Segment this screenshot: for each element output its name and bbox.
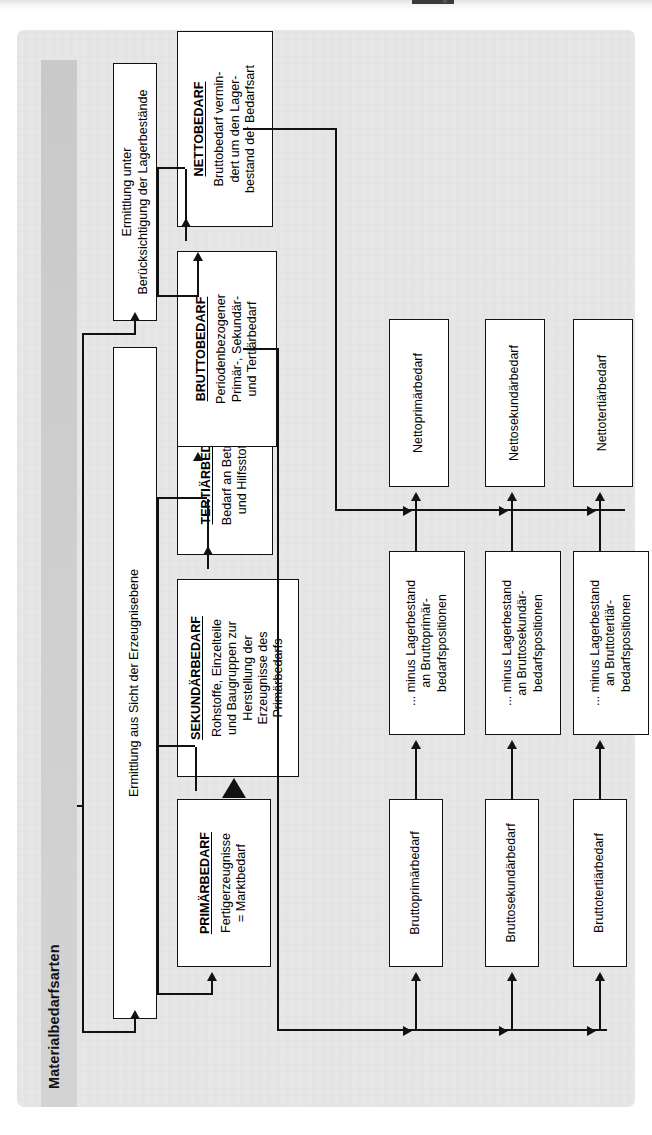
node-sekundaerbedarf-line4: Erzeugnisse des (256, 631, 271, 724)
node-nettobedarf-header: NETTOBEDARF (192, 82, 207, 177)
feed-primaer-arrow (411, 972, 421, 981)
level-lagerbestaende: Ermittlung unter Berücksichtigung der La… (113, 63, 157, 321)
node-bruttoprimaerbedarf-label: Bruttoprimärbedarf (408, 831, 423, 934)
arrow-brutto-entry (193, 252, 203, 261)
feeder-lager-top (157, 169, 159, 297)
node-sekundaerbedarf-line2: und Baugruppen zur (225, 621, 240, 735)
node-primaerbedarf-line1: Fertigerzeugnisse (219, 833, 234, 933)
arrow-into-nettobedarf (181, 218, 191, 227)
node-sekundaerbedarf-line3: Herstellung der (241, 635, 256, 720)
nettobedarf-bus-drop (243, 128, 337, 130)
chain3-a (599, 749, 601, 799)
feeder-erzeugnis-spine (157, 993, 211, 995)
level-erzeugnisebene: Ermittlung aus Sicht der Erzeugnisebene (113, 347, 157, 1019)
node-sekundaerbedarf-line1: Rohstoffe, Einzelteile (210, 619, 225, 737)
spine-drop-right (82, 333, 135, 335)
feed-primaer-chain (415, 981, 417, 1031)
node-minus-tertiaer[interactable]: ... minus Lagerbestand an Bruttotertiär-… (573, 551, 649, 735)
node-nettosekundaerbedarf[interactable]: Nettosekundärbedarf (485, 319, 545, 487)
spine-arm-right2 (134, 319, 136, 335)
node-nettotertiaerbedarf[interactable]: Nettotertiärbedarf (573, 319, 633, 487)
feeder-brutto-approach (197, 261, 199, 297)
node-minus-sekundaer-line1: ... minus Lagerbestand (500, 580, 515, 706)
chain3-arrow-a (595, 740, 605, 749)
nettobus-arrow-row1 (403, 506, 412, 516)
chain2-a (511, 749, 513, 799)
node-sekundaerbedarf-line5: Primärbedarfs (271, 638, 286, 717)
node-minus-primaer[interactable]: ... minus Lagerbestand an Bruttoprimär- … (389, 551, 465, 735)
node-bruttobedarf-line1: Periodenbezogener (214, 294, 229, 404)
chain3-arrow-b (595, 492, 605, 501)
level-erzeugnisebene-label: Ermittlung aus Sicht der Erzeugnisebene (127, 569, 143, 797)
bruttobus-arrow-row3 (587, 1026, 596, 1036)
spine-arm-right (82, 333, 84, 807)
scan-artifact-mark (412, 0, 454, 4)
feeder-to-sekundaer (157, 745, 195, 747)
spine-drop-left (82, 1031, 135, 1033)
node-bruttotertiaerbedarf-label: Bruttotertiärbedarf (592, 833, 607, 933)
node-nettobedarf-line2: dert um den Lager- (228, 75, 243, 182)
node-minus-tertiaer-line2: an Bruttotertiär- (603, 600, 618, 686)
node-primaerbedarf-line2: = Marktbedarf (234, 844, 249, 922)
arrow-into-erzeugnisebene (130, 1010, 140, 1019)
bruttobedarf-bus-v (277, 1029, 607, 1031)
node-bruttosekundaerbedarf[interactable]: Bruttosekundärbedarf (485, 799, 539, 967)
feeder-to-tertiaer-v (157, 497, 207, 499)
chain2-arrow-a (507, 740, 517, 749)
arrow-into-tertiaer (203, 546, 213, 555)
feeder-lager-spine (157, 295, 197, 297)
bruttobus-arrow-row1 (403, 1026, 412, 1036)
chain1-a (415, 749, 417, 799)
node-nettobedarf-line1: Bruttobedarf vermin- (212, 72, 227, 187)
node-bruttotertiaerbedarf[interactable]: Bruttotertiärbedarf (573, 799, 627, 967)
feeder-erzeugnis-top (157, 499, 159, 995)
chain2-arrow-b (507, 492, 517, 501)
node-bruttobedarf-header: BRUTTOBEDARF (194, 297, 209, 402)
node-bruttoprimaerbedarf[interactable]: Bruttoprimärbedarf (389, 799, 443, 967)
feeder-to-sekundaer-h (195, 747, 197, 791)
feed-sekundaer-arrow (507, 972, 517, 981)
nettobedarf-bus-h (335, 129, 337, 511)
feeder-to-netto-v (157, 167, 185, 169)
bruttobedarf-bus-drop (243, 348, 279, 350)
feed-tertiaer-arrow (595, 972, 605, 981)
feeder-to-tertiaer-h (207, 499, 209, 569)
scan-artifact-dot (443, 0, 447, 3)
chain1-arrow-b (411, 492, 421, 501)
page-title: Materialbedarfsarten (46, 944, 62, 1089)
node-nettotertiaerbedarf-label: Nettotertiärbedarf (595, 355, 610, 451)
scan-page-edge (0, 0, 652, 10)
node-minus-sekundaer-line2: an Bruttosekundär- (515, 590, 530, 695)
spine-horizontal (82, 805, 84, 1033)
node-nettoprimaerbedarf-label: Nettoprimärbedarf (411, 353, 426, 453)
node-minus-primaer-line3: bedarfspositionen (435, 594, 450, 692)
nettobedarf-bus-v (335, 509, 625, 511)
node-nettosekundaerbedarf-label: Nettosekundärbedarf (507, 345, 522, 461)
node-sekundaerbedarf-header: SEKUNDÄRBEDARF (189, 616, 204, 740)
feeder-to-netto-h (185, 169, 187, 241)
nettobus-arrow-row3 (587, 506, 596, 516)
node-minus-sekundaer[interactable]: ... minus Lagerbestand an Bruttosekundär… (485, 551, 561, 735)
level-lagerbestaende-label: Ermittlung unter Berücksichtigung der La… (119, 89, 152, 294)
node-minus-primaer-line1: ... minus Lagerbestand (404, 580, 419, 706)
arrow-into-lagerbestaende (130, 312, 140, 321)
bruttobus-arrow-row2 (499, 1026, 508, 1036)
chain1-arrow-a (411, 740, 421, 749)
node-minus-primaer-line2: an Bruttoprimär- (419, 598, 434, 688)
spine-arm-left (134, 1017, 136, 1033)
node-primaerbedarf-header: PRIMÄRBEDARF (198, 832, 213, 934)
node-primaerbedarf[interactable]: PRIMÄRBEDARF Fertigerzeugnisse = Marktbe… (177, 799, 271, 967)
diagram-stage: Materialbedarfsarten Ermittlung aus Sich… (17, 30, 635, 1107)
bruttobedarf-bus-h (277, 349, 279, 1031)
arrow-into-bruttobedarf (193, 452, 203, 461)
node-bruttosekundaerbedarf-label: Bruttosekundärbedarf (504, 823, 519, 942)
arrow-primaer-to-sekundaer (222, 778, 246, 798)
feeder-to-primaer-h (211, 981, 213, 995)
node-minus-tertiaer-line1: ... minus Lagerbestand (588, 580, 603, 706)
nettobus-arrow-row2 (499, 506, 508, 516)
node-nettoprimaerbedarf[interactable]: Nettoprimärbedarf (389, 319, 449, 487)
node-minus-tertiaer-line3: bedarfspositionen (619, 594, 634, 692)
feed-tertiaer-chain (599, 981, 601, 1031)
feed-sekundaer-chain (511, 981, 513, 1031)
arrow-into-primaer (207, 972, 217, 981)
